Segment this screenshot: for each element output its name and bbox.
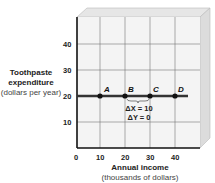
- point-label-a: A: [104, 85, 110, 94]
- point-label-c: C: [153, 85, 159, 94]
- point-a: [97, 93, 102, 98]
- box-side: [200, 8, 210, 148]
- plot-area: [77, 17, 200, 148]
- point-d: [172, 93, 177, 98]
- delta-annotation: ΔX = 10 ΔY = 0: [122, 104, 156, 122]
- point-label-d: D: [178, 85, 184, 94]
- point-label-b: B: [128, 85, 134, 94]
- x-axis-label: Annual income (thousands of dollars): [80, 163, 200, 183]
- y-tick-10: 10: [63, 118, 71, 127]
- x-tick-30: 30: [146, 153, 154, 162]
- x-tick-40: 40: [171, 153, 179, 162]
- x-tick-20: 20: [121, 153, 129, 162]
- y-tick-30: 30: [63, 66, 71, 75]
- x-tick-0: 0: [74, 153, 78, 162]
- point-c: [147, 93, 152, 98]
- x-tick-10: 10: [96, 153, 104, 162]
- y-tick-40: 40: [63, 40, 71, 49]
- y-tick-20: 20: [63, 92, 71, 101]
- box-top: [77, 8, 210, 17]
- point-b: [122, 93, 127, 98]
- y-axis-label: Toothpaste expenditure (dollars per year…: [0, 68, 62, 98]
